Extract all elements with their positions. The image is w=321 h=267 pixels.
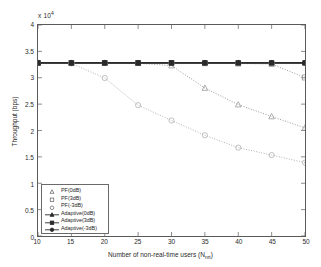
legend-marker-triangle-icon xyxy=(44,187,60,195)
legend-item[interactable]: PF(0dB) xyxy=(44,187,106,195)
data-point-circle xyxy=(38,60,40,65)
legend-label: Adaptive(3dB) xyxy=(60,217,95,225)
x-tick-label: 30 xyxy=(168,238,175,245)
x-tick-label: 10 xyxy=(33,238,40,245)
y-axis-exponent-base: x 10 xyxy=(38,12,51,19)
data-point-triangle xyxy=(235,102,241,107)
y-tick-label: 2 xyxy=(30,127,34,134)
y-axis-title: Throughput (bps) xyxy=(11,72,18,172)
data-point-triangle xyxy=(269,113,275,118)
x-axis-tick-labels: 101520253035404550 xyxy=(0,238,321,250)
legend-item[interactable]: Adaptive(0dB) xyxy=(44,210,106,218)
y-tick-label: 1.5 xyxy=(25,154,34,161)
series-line xyxy=(38,63,305,163)
data-point-circle xyxy=(169,118,174,123)
x-tick-label: 15 xyxy=(67,238,74,245)
data-point-circle xyxy=(50,206,54,210)
y-tick-label: 3 xyxy=(30,74,34,81)
x-tick-label: 40 xyxy=(235,238,242,245)
data-point-circle xyxy=(236,60,241,65)
x-tick-label: 45 xyxy=(269,238,276,245)
data-point-square xyxy=(50,221,53,224)
legend-item[interactable]: PF(-3dB) xyxy=(44,202,106,210)
data-point-circle xyxy=(136,60,141,65)
data-point-square xyxy=(50,198,53,201)
legend-label: PF(0dB) xyxy=(60,187,81,195)
x-tick-label: 20 xyxy=(101,238,108,245)
data-point-circle xyxy=(136,103,141,108)
figure: x 104 00.511.522.533.54 1015202530354045… xyxy=(0,0,321,267)
data-point-circle xyxy=(236,145,241,150)
x-tick-label: 25 xyxy=(134,238,141,245)
legend-label: PF(3dB) xyxy=(60,195,81,203)
legend-label: Adaptive(0dB) xyxy=(60,210,95,218)
x-tick-label: 50 xyxy=(302,238,309,245)
legend-marker-circle-icon xyxy=(44,225,60,233)
data-point-circle xyxy=(169,60,174,65)
legend-marker-square-icon xyxy=(44,217,60,225)
x-axis-title: Number of non-real-time users (Nnrt) xyxy=(0,251,321,260)
y-axis-exponent: x 104 xyxy=(38,10,54,19)
legend-item[interactable]: PF(3dB) xyxy=(44,195,106,203)
legend-item[interactable]: Adaptive(3dB) xyxy=(44,217,106,225)
legend-label: Adaptive(-3dB) xyxy=(60,225,97,233)
legend-label: PF(-3dB) xyxy=(60,202,83,210)
data-point-triangle xyxy=(50,190,54,194)
x-axis-title-main: Number of non-real-time users (N xyxy=(108,251,205,258)
legend-marker-triangle-icon xyxy=(44,210,60,218)
y-tick-label: 1 xyxy=(30,180,34,187)
data-point-triangle xyxy=(50,213,54,217)
y-tick-label: 3.5 xyxy=(25,47,34,54)
legend: PF(0dB)PF(3dB)PF(-3dB)Adaptive(0dB)Adapt… xyxy=(41,184,109,234)
data-point-circle xyxy=(203,60,208,65)
legend-marker-circle-icon xyxy=(44,202,60,210)
y-tick-label: 4 xyxy=(30,21,34,28)
data-point-circle xyxy=(50,228,54,232)
data-point-circle xyxy=(69,60,74,65)
data-point-circle xyxy=(102,60,107,65)
data-point-circle xyxy=(269,60,274,65)
legend-item[interactable]: Adaptive(-3dB) xyxy=(44,225,106,233)
x-axis-title-suffix: ) xyxy=(211,251,213,258)
data-point-circle xyxy=(303,60,305,65)
y-axis-exponent-power: 4 xyxy=(51,10,54,16)
y-tick-label: 2.5 xyxy=(25,100,34,107)
x-tick-label: 35 xyxy=(202,238,209,245)
legend-marker-square-icon xyxy=(44,195,60,203)
y-tick-label: 0.5 xyxy=(25,207,34,214)
